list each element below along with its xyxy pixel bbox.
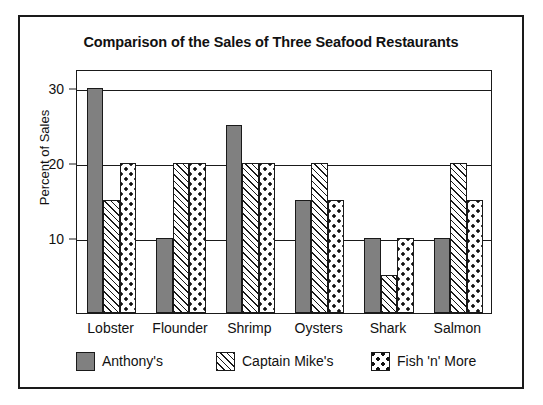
bar-lobster-series-1 [103, 200, 120, 313]
x-axis-label-flounder: Flounder [152, 320, 207, 336]
legend-label-1: Captain Mike's [242, 353, 333, 369]
bar-shrimp-series-0 [226, 125, 243, 313]
bar-oysters-series-0 [295, 200, 312, 313]
y-tick-label-20: 20 [32, 156, 64, 172]
legend-label-2: Fish 'n' More [397, 353, 476, 369]
x-axis-label-shrimp: Shrimp [227, 320, 271, 336]
y-tick-label-10: 10 [32, 231, 64, 247]
gridline-20 [77, 165, 491, 166]
y-tick-mark-20 [69, 163, 76, 164]
legend: Anthony'sCaptain Mike'sFish 'n' More [76, 348, 506, 378]
chart-figure: Comparison of the Sales of Three Seafood… [0, 0, 543, 405]
legend-item-0: Anthony's [76, 348, 163, 374]
x-axis-label-oysters: Oysters [295, 320, 343, 336]
bar-flounder-series-2 [189, 163, 206, 313]
legend-swatch-solid-gray-icon [76, 352, 95, 371]
bar-lobster-series-0 [87, 88, 104, 313]
y-tick-mark-30 [69, 88, 76, 89]
x-axis-label-salmon: Salmon [434, 320, 481, 336]
legend-swatch-polka-dot-icon [371, 352, 390, 371]
legend-item-2: Fish 'n' More [371, 348, 476, 374]
plot-area [76, 70, 492, 314]
bar-lobster-series-2 [120, 163, 137, 313]
bar-salmon-series-0 [434, 238, 451, 313]
bar-salmon-series-1 [450, 163, 467, 313]
y-tick-mark-10 [69, 238, 76, 239]
bar-oysters-series-1 [311, 163, 328, 313]
bar-shrimp-series-2 [259, 163, 276, 313]
chart-title: Comparison of the Sales of Three Seafood… [18, 34, 524, 50]
legend-item-1: Captain Mike's [216, 348, 333, 374]
bar-shrimp-series-1 [242, 163, 259, 313]
bar-shark-series-0 [364, 238, 381, 313]
bar-flounder-series-1 [173, 163, 190, 313]
bar-flounder-series-0 [156, 238, 173, 313]
y-tick-label-30: 30 [32, 81, 64, 97]
bar-shark-series-2 [397, 238, 414, 313]
legend-swatch-diagonal-hatch-icon [216, 352, 235, 371]
gridline-10 [77, 240, 491, 241]
x-axis-label-shark: Shark [370, 320, 407, 336]
x-axis-label-lobster: Lobster [87, 320, 134, 336]
bar-shark-series-1 [381, 275, 398, 313]
gridline-30 [77, 90, 491, 91]
bar-oysters-series-2 [328, 200, 345, 313]
legend-label-0: Anthony's [102, 353, 163, 369]
bar-salmon-series-2 [467, 200, 484, 313]
